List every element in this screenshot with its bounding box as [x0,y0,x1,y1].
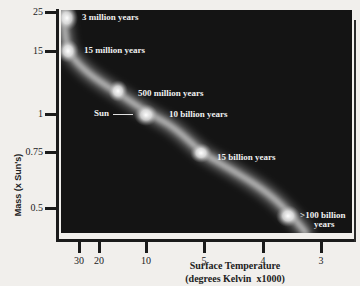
x-tick-4 [262,241,265,253]
label-100-billion-years-line2: years [314,220,335,229]
label-15-million-years: 15 million years [84,46,145,55]
label-sun: Sun [94,109,109,118]
y-tick-25 [45,11,57,14]
x-axis-title-line2: (degrees Kelvin x1000) [165,272,305,285]
label-3-million-years: 3 million years [82,13,139,22]
sun-pointer-line [113,114,133,115]
y-tick-0-5 [45,207,57,210]
mass-temperature-chart: 3 million years 15 million years 500 mil… [0,0,360,286]
x-tick-3 [320,241,323,253]
x-tick-30 [78,241,81,253]
y-tick-label-0-75: 0.75 [3,147,43,157]
label-10-billion-years: 10 billion years [169,110,228,119]
x-tick-5 [203,241,206,253]
label-500-million-years: 500 million years [138,89,204,98]
x-tick-10 [145,241,148,253]
y-tick-0-75 [45,151,57,154]
x-tick-label-10: 10 [134,256,158,266]
y-axis-title: Mass (x Sun's) [13,145,23,225]
y-tick-label-15: 15 [3,46,43,56]
plot-area: 3 million years 15 million years 500 mil… [61,10,352,233]
y-tick-label-0-5: 0.5 [3,203,43,213]
label-15-billion-years: 15 billion years [217,153,276,162]
right-border-line [354,20,356,242]
y-tick-label-1: 1 [3,109,43,119]
y-tick-label-25: 25 [3,7,43,17]
y-tick-1 [45,113,57,116]
x-tick-label-20: 20 [87,256,111,266]
x-axis-title-line1: Surface Temperature [165,259,305,272]
x-tick-label-3: 3 [309,256,333,266]
x-axis-title: Surface Temperature (degrees Kelvin x100… [165,259,305,285]
x-tick-20 [98,241,101,253]
main-sequence-band [61,10,352,233]
y-tick-15 [45,50,57,53]
